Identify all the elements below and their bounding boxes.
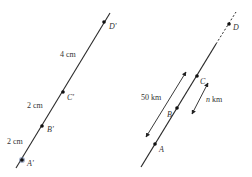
point-marker	[40, 124, 44, 128]
point-label: C'	[67, 93, 74, 102]
point-marker	[195, 74, 199, 78]
segment-length-label: 2 cm	[7, 137, 24, 146]
right-figure-road-line: ABCD50 kmn km	[141, 12, 239, 167]
point-marker	[102, 20, 106, 24]
point-label: C	[200, 77, 206, 86]
segment-length-label: 2 cm	[27, 101, 44, 110]
point-label: A'	[26, 159, 34, 168]
point-marker	[20, 158, 24, 162]
geometry-diagram: A'B'C'D'2 cm2 cm4 cm ABCD50 kmn km	[0, 0, 252, 177]
left-figure-scaled-line: A'B'C'D'2 cm2 cm4 cm	[7, 13, 117, 168]
point-marker	[153, 142, 157, 146]
point-marker	[61, 90, 65, 94]
point-marker	[175, 106, 179, 110]
point-marker	[227, 22, 231, 26]
double-arrow-dimension	[146, 72, 186, 137]
point-label: D'	[108, 22, 117, 31]
distance-label: 50 km	[141, 93, 162, 102]
point-label: A	[158, 145, 164, 154]
point-label: B	[167, 110, 172, 119]
point-label: B'	[47, 125, 54, 134]
distance-label: n km	[206, 95, 223, 104]
point-label: D	[232, 23, 239, 32]
road-line	[141, 44, 216, 167]
segment-length-label: 4 cm	[60, 50, 77, 59]
